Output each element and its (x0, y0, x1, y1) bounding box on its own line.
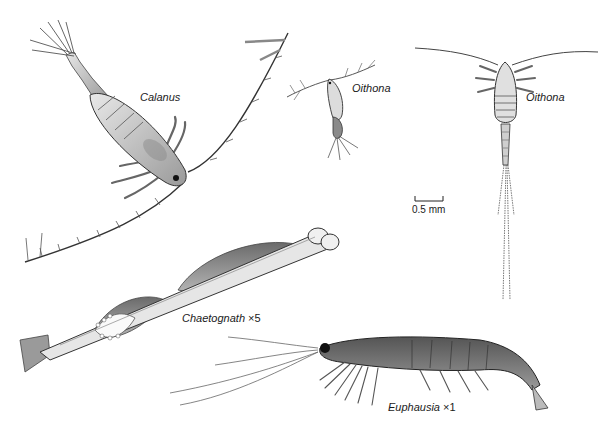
label-oithona-small-name: Oithona (352, 82, 391, 94)
label-chaetognath: Chaetognath×5 (182, 312, 261, 324)
chaetognath-drawing (20, 228, 339, 372)
label-euphausia-name: Euphausia (388, 401, 440, 413)
scale-bar (415, 196, 443, 201)
plankton-illustration (0, 0, 616, 432)
label-calanus: Calanus (140, 91, 180, 103)
label-oithona-small: Oithona (352, 82, 391, 94)
label-chaetognath-magnification: ×5 (248, 312, 261, 324)
label-oithona-large: Oithona (526, 91, 565, 103)
label-chaetognath-name: Chaetognath (182, 312, 245, 324)
oithona-large-drawing (415, 48, 598, 300)
label-oithona-large-name: Oithona (526, 91, 565, 103)
euphausia-drawing (170, 337, 548, 410)
oithona-small-drawing (287, 60, 375, 160)
label-euphausia-magnification: ×1 (443, 401, 456, 413)
calanus-drawing (25, 20, 288, 262)
label-euphausia: Euphausia×1 (388, 401, 456, 413)
label-calanus-name: Calanus (140, 91, 180, 103)
scale-bar-label: 0.5 mm (412, 204, 445, 215)
